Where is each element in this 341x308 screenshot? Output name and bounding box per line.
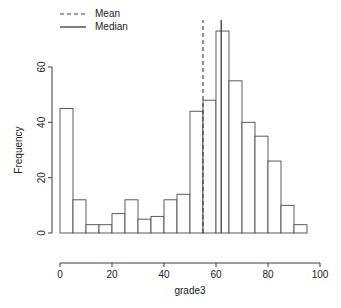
histogram-bar xyxy=(268,161,281,233)
histogram-bar xyxy=(151,216,164,233)
histogram-bar xyxy=(125,200,138,233)
x-axis-tick-label: 20 xyxy=(106,269,118,280)
histogram-bar xyxy=(281,205,294,233)
histogram-bar xyxy=(216,31,229,233)
histogram-bar xyxy=(190,111,203,233)
histogram-bar xyxy=(86,225,99,233)
histogram-bar xyxy=(255,136,268,233)
y-axis-title: Frequency xyxy=(13,126,24,173)
histogram-bar xyxy=(73,200,86,233)
legend-label-mean: Mean xyxy=(95,8,120,19)
histogram-bar xyxy=(138,219,151,233)
x-axis-tick-label: 0 xyxy=(57,269,63,280)
histogram-bar xyxy=(242,122,255,233)
histogram-bar xyxy=(164,200,177,233)
histogram-bar xyxy=(229,81,242,233)
y-axis-tick-label: 20 xyxy=(36,172,47,184)
x-axis-tick-label: 60 xyxy=(210,269,222,280)
histogram-bar xyxy=(203,100,216,233)
histogram-plot: 0204060Frequency020406080100grade3MeanMe… xyxy=(0,0,341,308)
histogram-bar xyxy=(177,194,190,233)
y-axis-tick-label: 0 xyxy=(36,230,47,236)
histogram-bar xyxy=(60,109,73,234)
x-axis-tick-label: 40 xyxy=(158,269,170,280)
chart-canvas: 0204060Frequency020406080100grade3MeanMe… xyxy=(0,0,341,308)
x-axis-tick-label: 80 xyxy=(262,269,274,280)
y-axis-tick-label: 60 xyxy=(36,61,47,73)
x-axis-title: grade3 xyxy=(174,285,206,296)
histogram-bar xyxy=(294,225,307,233)
x-axis-tick-label: 100 xyxy=(312,269,329,280)
histogram-bar xyxy=(99,225,112,233)
y-axis-tick-label: 40 xyxy=(36,116,47,128)
histogram-bar xyxy=(112,214,125,233)
legend-label-median: Median xyxy=(95,21,128,32)
